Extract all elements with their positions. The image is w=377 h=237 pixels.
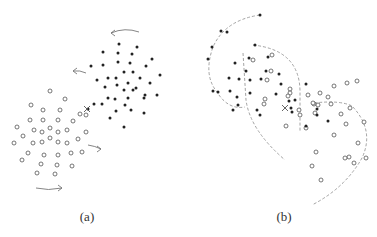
open-point: [76, 137, 80, 141]
filled-point: [260, 78, 263, 81]
open-point: [48, 126, 52, 130]
open-point: [356, 141, 360, 145]
filled-point: [234, 62, 237, 65]
open-point: [298, 113, 302, 117]
open-point: [263, 97, 267, 101]
open-point: [55, 163, 59, 167]
filled-point: [156, 94, 159, 97]
filled-point: [123, 126, 126, 129]
filled-point: [259, 114, 262, 117]
open-point: [332, 133, 336, 137]
open-point: [58, 108, 62, 112]
open-point: [15, 125, 19, 129]
filled-point: [248, 57, 251, 60]
panel-b-scatter: [207, 14, 369, 206]
open-point: [35, 171, 39, 175]
filled-point: [265, 70, 268, 73]
filled-point: [228, 77, 231, 80]
open-point: [39, 162, 43, 166]
filled-point: [280, 83, 283, 86]
open-point: [78, 112, 82, 116]
filled-point: [132, 71, 135, 74]
open-point: [326, 95, 330, 99]
open-point: [329, 102, 333, 106]
filled-point: [267, 56, 270, 59]
open-point: [26, 151, 30, 155]
filled-point: [129, 62, 132, 65]
open-point: [348, 106, 352, 110]
arrow-head-icon: [111, 30, 115, 36]
open-point: [306, 93, 310, 97]
open-point: [29, 103, 33, 107]
open-point: [56, 153, 60, 157]
filled-point: [288, 100, 291, 103]
filled-point: [107, 97, 110, 100]
filled-point: [256, 109, 259, 112]
open-point: [355, 79, 359, 83]
open-point: [56, 118, 60, 122]
filled-point: [117, 52, 120, 55]
open-point: [352, 161, 356, 165]
filled-point: [316, 108, 319, 111]
filled-point: [207, 58, 210, 61]
filled-point: [245, 70, 248, 73]
filled-point: [249, 92, 252, 95]
filled-point: [151, 58, 154, 61]
filled-point: [237, 104, 240, 107]
open-point: [56, 130, 60, 134]
filled-point: [102, 64, 105, 67]
open-point: [297, 108, 301, 112]
filled-point: [220, 30, 223, 33]
open-point: [70, 164, 74, 168]
open-point: [40, 130, 44, 134]
open-point: [316, 103, 320, 107]
filled-point: [217, 91, 220, 94]
filled-point: [109, 117, 112, 120]
figure-canvas: [0, 0, 377, 237]
filled-point: [132, 89, 135, 92]
open-point: [41, 118, 45, 122]
filled-point: [93, 103, 96, 106]
open-point: [284, 124, 288, 128]
open-point: [56, 140, 60, 144]
open-point: [319, 178, 323, 182]
filled-point: [305, 125, 308, 128]
open-point: [84, 130, 88, 134]
open-point: [344, 122, 348, 126]
open-point: [65, 128, 69, 132]
filled-point: [226, 31, 229, 34]
open-point: [69, 151, 73, 155]
open-point: [339, 112, 343, 116]
filled-point: [118, 43, 121, 46]
filled-point: [139, 77, 142, 80]
filled-point: [159, 74, 162, 77]
open-point: [265, 78, 269, 82]
filled-point: [143, 112, 146, 115]
filled-point: [212, 90, 215, 93]
open-point: [288, 87, 292, 91]
filled-point: [249, 79, 252, 82]
filled-point: [115, 110, 118, 113]
open-point: [362, 120, 366, 124]
open-point: [53, 172, 57, 176]
open-point: [21, 134, 25, 138]
filled-point: [101, 103, 104, 106]
filled-point: [116, 84, 119, 87]
filled-point: [291, 111, 294, 114]
panel-a-label: (a): [80, 209, 94, 225]
open-point: [20, 158, 24, 162]
cross-marker-icon: [282, 105, 288, 111]
open-point: [262, 102, 266, 106]
open-point: [48, 89, 52, 93]
open-point: [251, 58, 255, 62]
open-point: [269, 69, 273, 73]
filled-point: [236, 96, 239, 99]
filled-point: [124, 104, 127, 107]
open-point: [84, 113, 88, 117]
filled-point: [136, 46, 139, 49]
filled-point: [123, 89, 126, 92]
filled-point: [144, 94, 147, 97]
boundary-curve: [312, 102, 367, 205]
filled-point: [115, 77, 118, 80]
filled-point: [107, 77, 110, 80]
